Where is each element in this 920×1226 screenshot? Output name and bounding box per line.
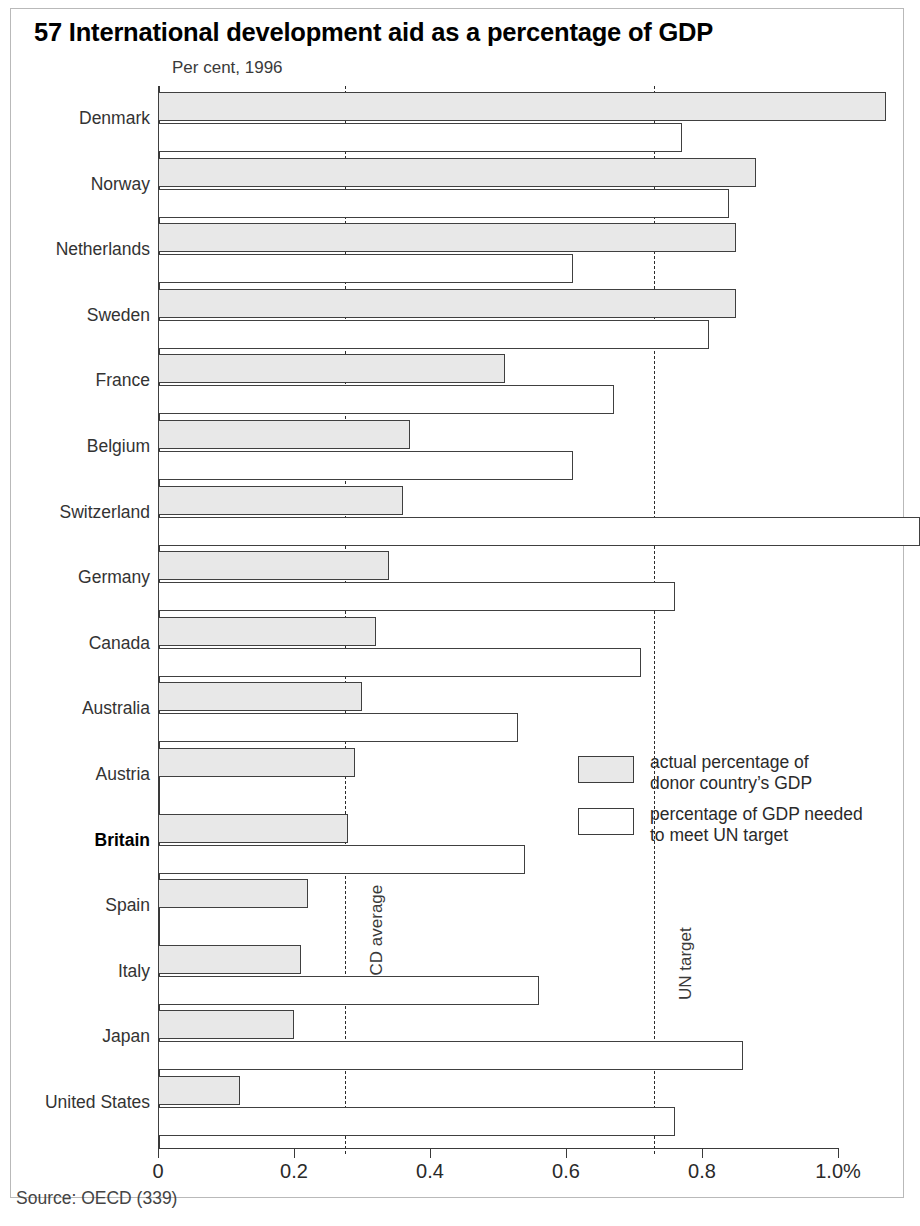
x-tick-1 — [294, 1148, 295, 1158]
bar-actual-australia — [158, 682, 362, 711]
legend-label-actual-line1: actual percentage of — [650, 752, 809, 772]
bar-actual-france — [158, 354, 505, 383]
bar-actual-japan — [158, 1010, 294, 1039]
legend-item-actual: actual percentage of donor country’s GDP — [578, 752, 888, 798]
category-label-austria: Austria — [0, 764, 164, 785]
bar-actual-italy — [158, 945, 301, 974]
category-label-italy: Italy — [0, 961, 164, 982]
category-label-netherlands: Netherlands — [0, 239, 164, 260]
bar-actual-belgium — [158, 420, 410, 449]
bar-actual-denmark — [158, 92, 886, 121]
category-label-canada: Canada — [0, 633, 164, 654]
category-label-australia: Australia — [0, 698, 164, 719]
legend-label-actual-line2: donor country’s GDP — [650, 773, 812, 793]
bar-actual-netherlands — [158, 223, 736, 252]
bar-actual-germany — [158, 551, 389, 580]
category-label-belgium: Belgium — [0, 436, 164, 457]
bar-actual-norway — [158, 158, 756, 187]
category-label-denmark: Denmark — [0, 108, 164, 129]
x-tick-4 — [702, 1148, 703, 1158]
category-label-spain: Spain — [0, 895, 164, 916]
x-tick-label-0: 0 — [152, 1160, 163, 1183]
bar-target-denmark — [158, 123, 682, 152]
category-label-germany: Germany — [0, 567, 164, 588]
legend-item-target: percentage of GDP needed to meet UN targ… — [578, 804, 888, 850]
x-tick-3 — [566, 1148, 567, 1158]
category-label-britain: Britain — [0, 830, 164, 851]
x-tick-2 — [430, 1148, 431, 1158]
x-tick-label-4: 0.8 — [688, 1160, 716, 1183]
x-tick-label-2: 0.4 — [416, 1160, 444, 1183]
bar-target-australia — [158, 713, 518, 742]
legend-label-target: percentage of GDP needed to meet UN targ… — [650, 804, 863, 846]
plot-area — [158, 92, 916, 1144]
bar-target-germany — [158, 582, 675, 611]
bar-target-switzerland — [158, 517, 920, 546]
legend-label-actual: actual percentage of donor country’s GDP — [650, 752, 812, 794]
bar-actual-austria — [158, 748, 355, 777]
category-label-japan: Japan — [0, 1026, 164, 1047]
bar-target-belgium — [158, 451, 573, 480]
bar-target-italy — [158, 976, 539, 1005]
bar-actual-britain — [158, 814, 348, 843]
chart-subtitle: Per cent, 1996 — [172, 58, 283, 78]
page-title: 57 International development aid as a pe… — [34, 18, 904, 47]
x-tick-label-3: 0.6 — [552, 1160, 580, 1183]
bar-actual-united-states — [158, 1076, 240, 1105]
category-label-norway: Norway — [0, 174, 164, 195]
category-label-sweden: Sweden — [0, 305, 164, 326]
category-label-united-states: United States — [0, 1092, 164, 1113]
bar-target-netherlands — [158, 254, 573, 283]
x-tick-0 — [158, 1148, 159, 1158]
x-tick-label-5: 1.0% — [815, 1160, 861, 1183]
bar-target-norway — [158, 189, 729, 218]
chart-legend: actual percentage of donor country’s GDP… — [578, 752, 888, 850]
bar-actual-spain — [158, 879, 308, 908]
source-note: Source: OECD (339) — [16, 1188, 177, 1209]
category-label-switzerland: Switzerland — [0, 502, 164, 523]
bar-target-britain — [158, 845, 525, 874]
legend-swatch-target — [578, 808, 634, 835]
legend-swatch-actual — [578, 756, 634, 783]
x-tick-label-1: 0.2 — [280, 1160, 308, 1183]
bar-actual-sweden — [158, 289, 736, 318]
x-tick-5 — [838, 1148, 839, 1158]
bar-actual-canada — [158, 617, 376, 646]
legend-label-target-line1: percentage of GDP needed — [650, 804, 863, 824]
bar-target-japan — [158, 1041, 743, 1070]
bar-actual-switzerland — [158, 486, 403, 515]
x-axis-line — [158, 1148, 839, 1149]
bar-target-france — [158, 385, 614, 414]
category-label-france: France — [0, 370, 164, 391]
bar-target-united-states — [158, 1107, 675, 1136]
bar-target-canada — [158, 648, 641, 677]
legend-label-target-line2: to meet UN target — [650, 825, 788, 845]
bar-target-sweden — [158, 320, 709, 349]
